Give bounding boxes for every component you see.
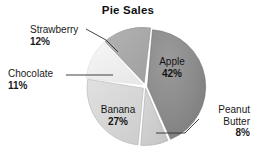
callout-strawberry: Strawberry 12% <box>30 24 78 47</box>
slice-label-banana: Banana 27% <box>92 104 144 127</box>
callout-peanut-butter-category-line2: Butter <box>200 116 250 128</box>
slice-label-apple: Apple 42% <box>148 56 196 79</box>
callout-chocolate-category: Chocolate <box>8 68 53 80</box>
slice-label-banana-percent: 27% <box>92 116 144 128</box>
callout-peanut-butter-percent: 8% <box>200 127 250 139</box>
slice-label-banana-category: Banana <box>92 104 144 116</box>
callout-peanut-butter: Peanut Butter 8% <box>200 104 250 139</box>
callout-chocolate-percent: 11% <box>8 80 53 92</box>
callout-strawberry-category: Strawberry <box>30 24 78 36</box>
slice-label-apple-percent: 42% <box>148 68 196 80</box>
callout-peanut-butter-category-line1: Peanut <box>200 104 250 116</box>
slice-label-apple-category: Apple <box>148 56 196 68</box>
callout-strawberry-percent: 12% <box>30 36 78 48</box>
pie-chart-figure: Pie Sales <box>0 0 256 161</box>
callout-chocolate: Chocolate 11% <box>8 68 53 91</box>
